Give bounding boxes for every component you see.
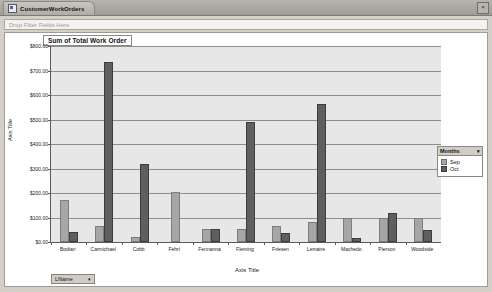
field-button-label: LName <box>55 276 73 282</box>
bar-sep[interactable] <box>379 218 388 243</box>
close-icon[interactable]: × <box>477 2 489 14</box>
legend-swatch <box>441 166 447 172</box>
legend-months[interactable]: Months ▾ SepOct <box>437 146 483 177</box>
tab-customer-work-orders[interactable]: CustomerWorkOrders <box>3 1 95 15</box>
bar-sep[interactable] <box>414 218 423 243</box>
bar-oct[interactable] <box>281 233 290 242</box>
bar-group <box>264 46 299 242</box>
y-tick-label: $600.00 <box>30 92 48 98</box>
y-tick-label: $100.00 <box>30 215 48 221</box>
legend-title: Months <box>440 148 460 154</box>
legend-item[interactable]: Oct <box>441 166 480 172</box>
bar-sep[interactable] <box>272 226 281 242</box>
y-tick-label: $300.00 <box>30 166 48 172</box>
filter-drop-area[interactable]: Drop Filter Fields Here <box>4 19 488 30</box>
x-axis-title: Axis Title <box>5 267 488 273</box>
legend-item-label: Oct <box>450 166 459 172</box>
bar-oct[interactable] <box>423 230 432 242</box>
x-tick-mark <box>122 242 123 245</box>
chart-title: Sum of Total Work Order <box>43 35 132 46</box>
legend-swatch <box>441 159 447 165</box>
bar-group <box>51 46 86 242</box>
x-tick-label: Pierson <box>369 246 404 252</box>
field-button-lname[interactable]: LName ▾ <box>51 274 95 284</box>
bar-sep[interactable] <box>343 218 352 243</box>
bar-oct[interactable] <box>69 232 78 242</box>
bar-group <box>228 46 263 242</box>
window-titlebar: CustomerWorkOrders × <box>0 0 492 16</box>
x-tick-mark <box>264 242 265 245</box>
x-tick-label: Machedo <box>334 246 369 252</box>
bar-sep[interactable] <box>131 237 140 242</box>
bar-series-layer <box>51 46 441 242</box>
bar-sep[interactable] <box>60 200 69 242</box>
bar-sep[interactable] <box>308 222 317 242</box>
x-tick-mark <box>335 242 336 245</box>
bar-sep[interactable] <box>237 229 246 242</box>
x-tick-label: Lemaire <box>298 246 333 252</box>
x-tick-mark <box>51 242 52 245</box>
x-tick-label: Fennanna <box>192 246 227 252</box>
tab-label: CustomerWorkOrders <box>20 6 84 12</box>
legend-header[interactable]: Months ▾ <box>438 147 482 156</box>
bar-sep[interactable] <box>171 192 180 242</box>
y-tick-label: $500.00 <box>30 117 48 123</box>
bar-oct[interactable] <box>352 238 361 242</box>
x-tick-label: Woodside <box>405 246 440 252</box>
bar-oct[interactable] <box>317 104 326 242</box>
x-tick-mark <box>299 242 300 245</box>
x-tick-label: Cobb <box>121 246 156 252</box>
filter-placeholder: Drop Filter Fields Here <box>9 22 69 28</box>
bar-oct[interactable] <box>140 164 149 242</box>
bar-sep[interactable] <box>95 226 104 242</box>
y-axis-title: Axis Title <box>7 119 13 141</box>
bar-group <box>299 46 334 242</box>
y-tick-label: $700.00 <box>30 68 48 74</box>
legend-items: SepOct <box>438 156 482 176</box>
x-tick-mark <box>406 242 407 245</box>
x-tick-label: Bodian <box>50 246 85 252</box>
y-tick-label: $0.00 <box>35 239 48 245</box>
x-tick-label: Carmichael <box>85 246 120 252</box>
x-tick-mark <box>193 242 194 245</box>
bar-group <box>157 46 192 242</box>
x-tick-mark <box>228 242 229 245</box>
bar-group <box>193 46 228 242</box>
bar-group <box>335 46 370 242</box>
x-axis-tick-labels: BodianCarmichaelCobbFehriFennannaFleming… <box>50 246 440 252</box>
bar-oct[interactable] <box>388 213 397 242</box>
chevron-down-icon[interactable]: ▾ <box>88 277 91 282</box>
x-tick-label: Fleming <box>227 246 262 252</box>
pivot-chart-window: CustomerWorkOrders × Drop Filter Fields … <box>0 0 492 292</box>
x-tick-label: Friesen <box>263 246 298 252</box>
bar-group <box>406 46 441 242</box>
y-tick-label: $400.00 <box>30 141 48 147</box>
bar-oct[interactable] <box>246 122 255 242</box>
y-tick-label: $200.00 <box>30 190 48 196</box>
bar-group <box>370 46 405 242</box>
bar-oct[interactable] <box>211 229 220 242</box>
plot-area: $800.00$700.00$600.00$500.00$400.00$300.… <box>50 46 441 243</box>
bar-sep[interactable] <box>202 229 211 242</box>
bar-oct[interactable] <box>104 62 113 242</box>
legend-item[interactable]: Sep <box>441 159 480 165</box>
y-tick-label: $800.00 <box>30 43 48 49</box>
chart-area: Sum of Total Work Order Axis Title $800.… <box>4 32 488 287</box>
bar-group <box>122 46 157 242</box>
chevron-down-icon[interactable]: ▾ <box>477 149 480 154</box>
legend-item-label: Sep <box>450 159 460 165</box>
x-tick-mark <box>157 242 158 245</box>
x-tick-label: Fehri <box>156 246 191 252</box>
x-tick-mark <box>86 242 87 245</box>
x-tick-mark <box>370 242 371 245</box>
pivot-chart-icon <box>8 4 17 13</box>
bar-group <box>86 46 121 242</box>
gridline <box>51 242 441 243</box>
